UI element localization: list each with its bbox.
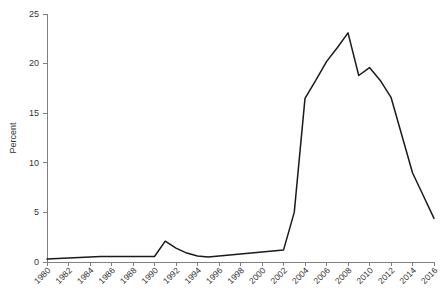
x-tick-label: 1996: [204, 265, 225, 286]
x-tick-label: 2008: [333, 265, 354, 286]
x-tick-label: 2014: [397, 265, 418, 286]
x-tick-label-group: 1980198219841986198819901992199419961998…: [32, 265, 440, 286]
x-tick-label: 2016: [419, 265, 440, 286]
x-tick-label: 1980: [32, 265, 53, 286]
y-tick-group: [43, 14, 47, 262]
x-tick-label: 2004: [290, 265, 311, 286]
x-tick-label: 2000: [247, 265, 268, 286]
x-tick-label: 1988: [118, 265, 139, 286]
x-tick-label: 2010: [354, 265, 375, 286]
y-tick-label: 20: [29, 58, 39, 68]
x-tick-group: [47, 262, 434, 266]
y-tick-label: 15: [29, 108, 39, 118]
x-tick-label: 2012: [376, 265, 397, 286]
x-tick-label: 1992: [161, 265, 182, 286]
x-tick-label: 1990: [139, 265, 160, 286]
line-chart: 0510152025 Percent 198019821984198619881…: [0, 0, 443, 299]
data-series-line: [47, 33, 434, 259]
y-axis-title: Percent: [8, 122, 18, 154]
x-tick-label: 1984: [75, 265, 96, 286]
x-tick-label: 1994: [182, 265, 203, 286]
y-axis: 0510152025 Percent: [8, 9, 47, 267]
x-tick-label: 1998: [225, 265, 246, 286]
plot-area: [47, 33, 434, 259]
y-tick-label: 5: [34, 207, 39, 217]
x-tick-label: 2002: [268, 265, 289, 286]
y-tick-label: 10: [29, 158, 39, 168]
y-tick-label: 25: [29, 9, 39, 19]
x-tick-label: 1986: [96, 265, 117, 286]
x-tick-label: 1982: [53, 265, 74, 286]
chart-canvas: 0510152025 Percent 198019821984198619881…: [0, 0, 443, 299]
y-tick-label-group: 0510152025: [29, 9, 39, 267]
x-axis: 1980198219841986198819901992199419961998…: [32, 262, 440, 286]
y-tick-label: 0: [34, 257, 39, 267]
x-tick-label: 2006: [311, 265, 332, 286]
